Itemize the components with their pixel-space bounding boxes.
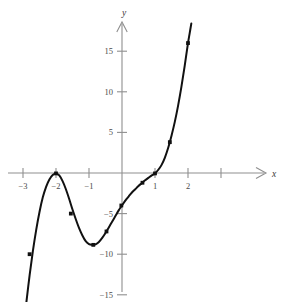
data-point-marker [153,172,157,176]
y-tick-label-5: 5 [109,127,113,137]
data-point-marker [119,204,123,208]
y-tick-label--15: −15 [100,290,113,300]
y-tick-label--10: −10 [100,249,113,259]
data-point-marker [105,230,109,234]
axes-group [8,22,266,292]
x-tick-label--1: −1 [84,181,93,191]
data-point-marker [54,172,58,176]
polynomial-curve [26,24,191,302]
y-tick-label--5: −5 [104,209,113,219]
y-tick-label-15: 15 [105,46,114,56]
x-tick-label--2: −2 [51,181,60,191]
x-tick-label--3: −3 [18,181,27,191]
curve-group [26,24,191,302]
data-point-marker [141,181,145,185]
data-point-marker [28,252,32,256]
x-axis-label: x [271,169,277,179]
y-axis-label: y [121,8,127,18]
data-point-marker [91,243,95,247]
y-tick-label-10: 10 [105,87,114,97]
x-tick-label-2: 2 [186,181,190,191]
data-points-group [28,41,190,256]
coordinate-plot: −3−2−11215105−5−10−15 xy [0,0,289,302]
data-point-marker [69,212,73,216]
x-tick-label-1: 1 [153,181,157,191]
graph-figure: −3−2−11215105−5−10−15 xy [0,0,289,302]
data-point-marker [186,41,190,45]
axis-labels-group: xy [121,8,277,179]
data-point-marker [168,140,172,144]
